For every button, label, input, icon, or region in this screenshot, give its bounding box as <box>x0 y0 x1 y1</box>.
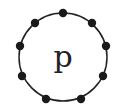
node-dot <box>59 9 67 17</box>
node-dot <box>99 72 107 80</box>
node-dot <box>31 19 39 27</box>
center-label: p <box>53 39 72 74</box>
node-dot <box>102 42 110 50</box>
node-dot <box>42 95 50 103</box>
node-dot <box>18 72 26 80</box>
node-dot <box>88 19 96 27</box>
node-dot <box>77 95 85 103</box>
node-dot <box>16 42 24 50</box>
circle-diagram: p <box>0 0 117 112</box>
